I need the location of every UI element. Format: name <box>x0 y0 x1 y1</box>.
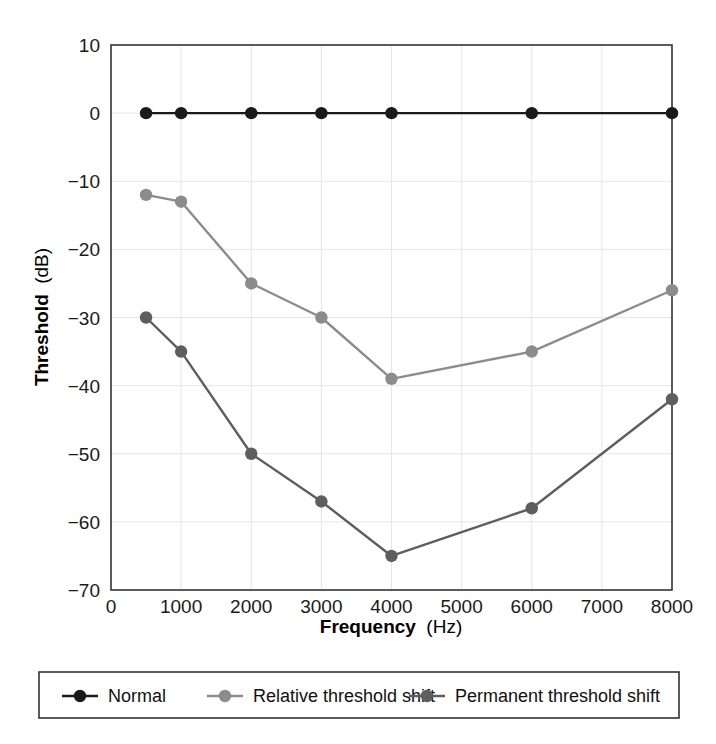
data-point <box>526 107 538 119</box>
y-tick-label: −40 <box>68 376 100 397</box>
threshold-frequency-line-chart: 010002000300040005000600070008000 100−10… <box>0 0 716 744</box>
data-point <box>385 550 397 562</box>
y-tick-label: −30 <box>68 308 100 329</box>
y-tick-label: 10 <box>79 35 100 56</box>
y-tick-label: 0 <box>89 103 100 124</box>
legend-label: Permanent threshold shift <box>455 686 660 706</box>
data-point <box>140 311 152 323</box>
x-axis-title-text: Frequency (Hz) <box>320 616 462 637</box>
x-axis-title-unit: (Hz) <box>426 616 462 637</box>
data-point <box>666 284 678 296</box>
x-tick-label: 0 <box>106 596 117 617</box>
data-point <box>175 345 187 357</box>
y-tick-label: −50 <box>68 444 100 465</box>
legend-items: NormalRelative threshold shiftPermanent … <box>62 686 660 706</box>
data-point <box>140 107 152 119</box>
legend-label: Normal <box>108 686 166 706</box>
y-tick-label: −60 <box>68 512 100 533</box>
chart-figure: 010002000300040005000600070008000 100−10… <box>0 0 716 744</box>
x-tick-label: 4000 <box>370 596 412 617</box>
y-axis-title: Threshold (dB) <box>31 248 52 386</box>
data-point <box>245 448 257 460</box>
y-tick-label: −20 <box>68 239 100 260</box>
x-tick-label: 2000 <box>230 596 272 617</box>
y-axis-title-bold: Threshold <box>31 294 52 386</box>
legend-marker-icon <box>74 690 86 702</box>
data-point <box>175 107 187 119</box>
data-point <box>140 189 152 201</box>
x-axis-title-bold: Frequency <box>320 616 417 637</box>
legend-marker-icon <box>219 690 231 702</box>
data-point <box>385 373 397 385</box>
x-tick-label: 1000 <box>160 596 202 617</box>
x-tick-label: 5000 <box>440 596 482 617</box>
legend-label: Relative threshold shift <box>253 686 435 706</box>
x-tick-label: 3000 <box>300 596 342 617</box>
y-axis-title-text: Threshold (dB) <box>31 248 52 386</box>
data-point <box>385 107 397 119</box>
y-axis-title-unit: (dB) <box>31 248 52 284</box>
data-point <box>245 107 257 119</box>
x-tick-labels: 010002000300040005000600070008000 <box>106 596 693 617</box>
y-tick-label: −10 <box>68 171 100 192</box>
x-axis-title: Frequency (Hz) <box>320 616 462 637</box>
x-tick-label: 8000 <box>651 596 693 617</box>
data-point <box>315 311 327 323</box>
legend-marker-icon <box>421 690 433 702</box>
x-tick-label: 6000 <box>511 596 553 617</box>
legend: NormalRelative threshold shiftPermanent … <box>39 672 679 718</box>
data-point <box>666 107 678 119</box>
data-point <box>666 393 678 405</box>
x-tick-label: 7000 <box>581 596 623 617</box>
y-tick-label: −70 <box>68 580 100 601</box>
data-point <box>245 277 257 289</box>
data-point <box>526 502 538 514</box>
data-point <box>315 107 327 119</box>
data-point <box>175 195 187 207</box>
data-point <box>526 345 538 357</box>
data-point <box>315 495 327 507</box>
